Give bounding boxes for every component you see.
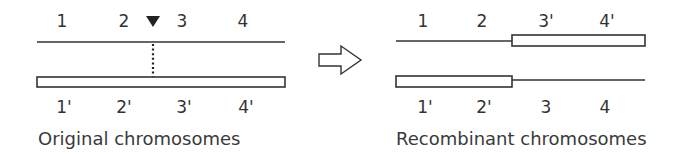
original-chromosome-bottom: [37, 77, 285, 87]
crossover-marker-icon: [146, 16, 160, 27]
right-arrow-icon: [319, 46, 361, 74]
original-bottom-label-3: 3': [176, 97, 192, 117]
recombinant-top-label-2: 2: [477, 11, 488, 31]
recombinant-top-label-1: 1: [418, 11, 429, 31]
recombinant-bottom-label-3: 3: [541, 97, 552, 117]
original-bottom-label-1: 1': [56, 97, 72, 117]
original-caption: Original chromosomes: [38, 128, 240, 150]
recombinant-top-bar-segment: [512, 35, 645, 46]
original-bottom-label-2: 2': [116, 97, 132, 117]
original-bottom-label-4: 4': [238, 97, 254, 117]
recombinant-bottom-label-2: 2': [476, 97, 492, 117]
original-top-label-4: 4: [238, 11, 249, 31]
recombinant-bottom-label-4: 4: [600, 97, 611, 117]
recombinant-bottom-label-1: 1': [417, 97, 433, 117]
recombinant-bottom-bar-segment: [396, 76, 512, 87]
original-top-label-3: 3: [177, 11, 188, 31]
recombinant-caption: Recombinant chromosomes: [396, 128, 647, 150]
recombinant-top-label-4: 4': [599, 11, 615, 31]
original-top-label-2: 2: [119, 11, 130, 31]
recombinant-top-label-3: 3': [538, 11, 554, 31]
original-top-label-1: 1: [57, 11, 68, 31]
